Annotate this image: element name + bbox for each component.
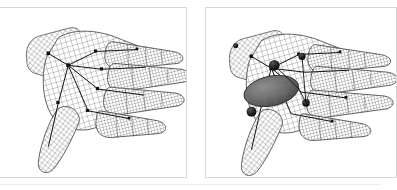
finger-middle — [107, 63, 186, 91]
thumb-mesh — [241, 109, 282, 175]
figure-caption — [0, 0, 1, 1]
right-hand-mesh-canvas — [206, 8, 396, 177]
panel-right-hand-wireframe-primitives — [205, 7, 397, 178]
hand-mesh-group — [229, 31, 396, 176]
hand-mesh-group — [26, 28, 186, 173]
baseline-rule — [0, 184, 381, 185]
panel-left-hand-wireframe — [0, 7, 187, 178]
thumb-mesh — [38, 106, 79, 172]
left-hand-mesh-canvas — [0, 8, 186, 177]
finger-little — [96, 111, 166, 138]
